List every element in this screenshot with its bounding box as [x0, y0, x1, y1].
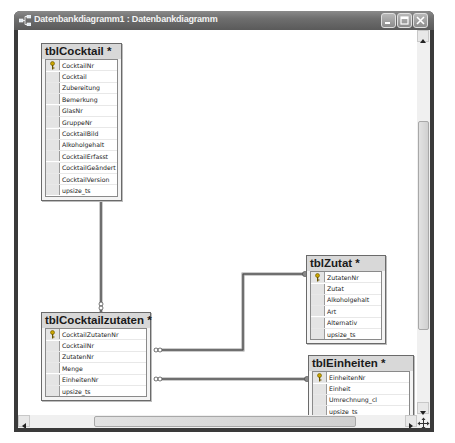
column-row[interactable]: Cocktail [46, 71, 117, 82]
column-row[interactable]: Einheit [313, 383, 409, 394]
column-name: CocktailGeändert [60, 164, 116, 171]
column-name: CocktailZutatenNr [60, 331, 118, 338]
row-selector[interactable] [46, 329, 60, 339]
column-name: Einheit [327, 385, 350, 392]
column-row[interactable]: Zubereitung [46, 83, 117, 94]
row-selector[interactable] [46, 106, 60, 116]
table-tblcocktailzutaten[interactable]: tblCocktailzutaten * CocktailZutatenNrCo… [41, 312, 151, 401]
scroll-left-button[interactable] [18, 415, 30, 427]
table-tblcocktail[interactable]: tblCocktail * CocktailNrCocktailZubereit… [41, 43, 122, 201]
column-name: GruppeNr [60, 119, 92, 126]
row-selector[interactable] [46, 341, 60, 351]
move-arrows-icon [417, 417, 430, 428]
column-row[interactable]: CocktailZutatenNr [46, 329, 146, 340]
column-row[interactable]: Alkoholgehalt [46, 140, 117, 151]
maximize-button[interactable] [397, 13, 412, 28]
column-row[interactable]: EinheitenNr [313, 372, 409, 383]
row-selector[interactable] [46, 386, 60, 396]
horizontal-scrollbar[interactable] [18, 415, 417, 428]
maximize-icon [398, 14, 411, 27]
column-row[interactable]: CocktailVersion [46, 174, 117, 185]
arrow-left-icon [19, 421, 29, 428]
row-selector[interactable] [46, 72, 60, 82]
row-selector[interactable] [46, 375, 60, 385]
column-name: Bemerkung [60, 96, 98, 103]
primary-key-icon [49, 61, 56, 70]
row-selector[interactable] [46, 140, 60, 150]
window-title: Datenbankdiagramm1 : Datenbankdiagramm [34, 14, 217, 24]
column-row[interactable]: upsize_ts [46, 386, 146, 396]
row-selector[interactable] [46, 129, 60, 139]
column-row[interactable]: Art [311, 306, 381, 317]
column-row[interactable]: EinheitenNr [46, 375, 146, 386]
row-selector[interactable] [46, 352, 60, 362]
row-selector[interactable] [46, 363, 60, 373]
row-selector[interactable] [311, 272, 325, 282]
column-name: CocktailBild [60, 130, 98, 137]
row-selector[interactable] [46, 151, 60, 161]
column-row[interactable]: upsize_ts [311, 329, 381, 339]
relationship-cocktail-cocktailzutaten[interactable] [99, 183, 104, 312]
relationship-zutat-cocktailzutaten[interactable] [154, 271, 308, 352]
column-row[interactable]: ZutatenNr [46, 352, 146, 363]
diagram-canvas[interactable]: tblCocktail * CocktailNrCocktailZubereit… [18, 30, 417, 415]
minimize-icon [382, 14, 395, 27]
column-row[interactable]: GruppeNr [46, 117, 117, 128]
column-row[interactable]: CocktailNr [46, 60, 117, 71]
column-row[interactable]: CocktailGeändert [46, 163, 117, 174]
diagram-icon [19, 15, 31, 26]
column-name: Zubereitung [60, 84, 100, 91]
table-tblzutat[interactable]: tblZutat * ZutatenNrZutatAlkoholgehaltAr… [306, 255, 386, 344]
column-row[interactable]: GlasNr [46, 106, 117, 117]
row-selector[interactable] [311, 284, 325, 294]
column-row[interactable]: Umrechnung_cl [313, 395, 409, 406]
primary-key-icon [314, 273, 321, 282]
row-selector[interactable] [46, 117, 60, 127]
close-button[interactable] [413, 13, 428, 28]
column-name: upsize_ts [327, 408, 358, 415]
column-row[interactable]: ZutatenNr [311, 272, 381, 283]
column-name: ZutatenNr [60, 353, 94, 360]
row-selector[interactable] [46, 94, 60, 104]
scroll-up-button[interactable] [417, 30, 429, 42]
column-row[interactable]: CocktailErfasst [46, 151, 117, 162]
row-selector[interactable] [311, 318, 325, 328]
row-selector[interactable] [313, 372, 327, 382]
title-bar[interactable]: Datenbankdiagramm1 : Datenbankdiagramm [14, 11, 434, 30]
row-selector[interactable] [313, 395, 327, 405]
column-row[interactable]: CocktailBild [46, 128, 117, 139]
table-title: tblCocktailzutaten * [42, 313, 150, 328]
column-name: Cocktail [60, 73, 87, 80]
diagram-window: Datenbankdiagramm1 : Datenbankdiagramm [14, 11, 434, 432]
column-row[interactable]: Menge [46, 363, 146, 374]
column-row[interactable]: upsize_ts [46, 185, 117, 195]
row-selector[interactable] [311, 329, 325, 339]
row-selector[interactable] [46, 185, 60, 195]
column-name: ZutatenNr [325, 274, 359, 281]
row-selector[interactable] [311, 306, 325, 316]
row-selector[interactable] [311, 295, 325, 305]
column-name: upsize_ts [60, 388, 91, 395]
scroll-down-button[interactable] [417, 402, 429, 414]
row-selector[interactable] [46, 174, 60, 184]
column-row[interactable]: Alternativ [311, 318, 381, 329]
scroll-right-button[interactable] [405, 415, 417, 427]
row-selector[interactable] [46, 83, 60, 93]
row-selector[interactable] [46, 60, 60, 70]
vertical-scrollbar[interactable] [417, 30, 430, 415]
row-selector[interactable] [46, 163, 60, 173]
table-tbleinheiten[interactable]: tblEinheiten * EinheitenNrEinheitUmrechn… [308, 355, 414, 422]
navigator-corner-button[interactable] [417, 415, 430, 428]
row-selector[interactable] [313, 384, 327, 394]
column-row[interactable]: Bemerkung [46, 94, 117, 105]
horizontal-scroll-thumb[interactable] [94, 416, 357, 427]
diagram-client-area: tblCocktail * CocktailNrCocktailZubereit… [18, 30, 430, 428]
arrow-right-icon [406, 421, 416, 428]
column-row[interactable]: Zutat [311, 283, 381, 294]
minimize-button[interactable] [381, 13, 396, 28]
vertical-scroll-thumb[interactable] [418, 121, 429, 330]
column-row[interactable]: CocktailNr [46, 340, 146, 351]
column-row[interactable]: Alkoholgehalt [311, 295, 381, 306]
relationship-einheiten-cocktailzutaten[interactable] [154, 376, 310, 381]
column-name: upsize_ts [60, 187, 91, 194]
